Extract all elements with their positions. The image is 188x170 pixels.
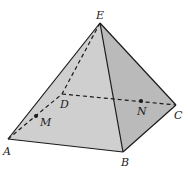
pyramid-diagram: E A B C D M N xyxy=(0,0,188,170)
label-M: M xyxy=(39,116,52,129)
label-B: B xyxy=(120,156,129,169)
point-M-dot xyxy=(34,114,38,118)
label-N: N xyxy=(136,105,147,118)
label-E: E xyxy=(95,9,104,22)
point-N-dot xyxy=(139,99,143,103)
label-C: C xyxy=(174,109,183,122)
label-D: D xyxy=(59,98,69,111)
label-A: A xyxy=(2,145,11,158)
